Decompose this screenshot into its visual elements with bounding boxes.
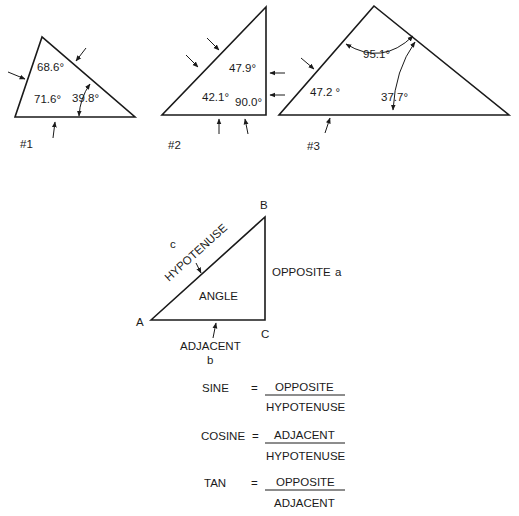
formula-denominator: HYPOTENUSE [266, 450, 346, 462]
hypotenuse-label: HYPOTENUSE [162, 221, 229, 283]
formula-tan: TAN = OPPOSITE ADJACENT [204, 476, 345, 509]
triangle-1-id: #1 [20, 138, 33, 150]
triangle-1-angle-top: 68.6° [37, 61, 64, 73]
triangle-1-shape [15, 37, 135, 117]
triangle-2-angle-right: 90.0° [235, 96, 262, 108]
arrow-icon [207, 38, 219, 50]
trig-diagram: 68.6° 71.6° 39.8° #1 47.9° 42.1° 90.0° #… [0, 0, 519, 516]
triangle-2-angle-left: 42.1° [202, 91, 229, 103]
formula-equals: = [251, 477, 258, 489]
arrow-icon [186, 55, 198, 67]
triangle-3-angle-left: 47.2 ° [310, 86, 340, 98]
vertex-b-label: B [260, 199, 268, 211]
adjacent-label: ADJACENT [180, 340, 241, 352]
formula-numerator: ADJACENT [274, 429, 335, 441]
triangle-1-angle-left: 71.6° [34, 93, 61, 105]
arrow-icon [196, 263, 201, 273]
formula-name: TAN [204, 477, 226, 489]
arrow-icon [325, 118, 330, 133]
formula-numerator: OPPOSITE [276, 476, 335, 488]
arrow-icon [301, 58, 314, 69]
formula-equals: = [252, 430, 259, 442]
adjacent-letter: b [207, 354, 213, 366]
triangle-3: 95.1° 47.2 ° 37.7° #3 [279, 6, 509, 152]
formula-denominator: HYPOTENUSE [266, 401, 346, 413]
formula-sine: SINE = OPPOSITE HYPOTENUSE [202, 381, 346, 413]
vertex-c-label: C [261, 328, 269, 340]
angle-label: ANGLE [199, 290, 238, 302]
triangle-3-angle-top: 95.1° [363, 48, 390, 60]
arrow-icon [76, 48, 86, 61]
formula-denominator: ADJACENT [274, 497, 335, 509]
arrow-icon [213, 323, 216, 338]
triangle-3-id: #3 [307, 140, 320, 152]
triangle-2-angle-top: 47.9° [229, 62, 256, 74]
formula-name: SINE [202, 382, 229, 394]
opposite-letter: a [335, 266, 342, 278]
hypotenuse-letter: c [170, 238, 176, 250]
arrow-icon [8, 72, 25, 79]
triangle-2-id: #2 [168, 139, 181, 151]
reference-triangle: B A C c HYPOTENUSE OPPOSITE a ANGLE ADJA… [136, 199, 342, 366]
triangle-1: 68.6° 71.6° 39.8° #1 [8, 37, 135, 150]
arrow-icon [53, 122, 55, 138]
formula-equals: = [251, 382, 258, 394]
formula-numerator: OPPOSITE [275, 381, 334, 393]
arrow-icon [245, 119, 248, 134]
triangle-3-angle-right: 37.7° [381, 91, 408, 103]
formula-cosine: COSINE = ADJACENT HYPOTENUSE [201, 429, 346, 462]
formula-name: COSINE [201, 430, 245, 442]
opposite-label: OPPOSITE [272, 266, 331, 278]
triangle-2: 47.9° 42.1° 90.0° #2 [162, 7, 285, 151]
vertex-a-label: A [136, 316, 144, 328]
triangle-1-angle-right: 39.8° [72, 92, 99, 104]
